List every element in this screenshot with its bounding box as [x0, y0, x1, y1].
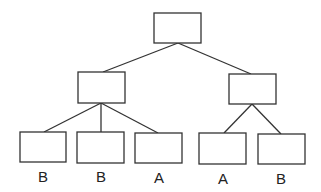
edge-left-leaf1: [44, 103, 101, 132]
node-leaf-5: [258, 134, 305, 164]
edge-right-leaf4: [224, 104, 252, 133]
node-leaf-3: [135, 133, 182, 163]
leaf-label-5: B: [276, 171, 286, 186]
tree-diagram: [0, 0, 321, 192]
edge-left-leaf3: [101, 103, 158, 133]
nodes: [20, 13, 305, 164]
leaf-label-1: B: [38, 169, 48, 184]
node-leaf-4: [199, 133, 246, 164]
edge-root-right: [178, 43, 251, 74]
node-leaf-1: [20, 132, 66, 162]
edge-root-left: [103, 43, 178, 72]
edge-right-leaf5: [252, 104, 281, 134]
node-left: [78, 72, 125, 103]
node-right: [229, 74, 276, 104]
leaf-label-2: B: [96, 169, 106, 184]
leaf-label-4: A: [218, 171, 228, 186]
leaf-label-3: A: [154, 170, 164, 185]
node-leaf-2: [77, 132, 124, 163]
node-root: [154, 13, 201, 43]
